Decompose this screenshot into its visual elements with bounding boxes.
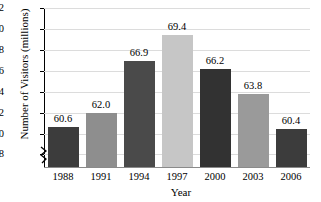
x-tick-label: 2006 bbox=[269, 172, 313, 183]
bar-value-label: 62.0 bbox=[81, 100, 121, 111]
y-tick-label: 64 bbox=[0, 87, 4, 98]
y-tick-mark bbox=[40, 154, 44, 155]
bar-value-label: 60.6 bbox=[43, 114, 83, 125]
x-axis-title: Year bbox=[52, 186, 310, 198]
y-tick-label: 62 bbox=[0, 108, 4, 119]
bar bbox=[238, 94, 269, 167]
y-tick-mark bbox=[40, 71, 44, 72]
y-tick-label: 72 bbox=[0, 3, 4, 14]
x-axis-line bbox=[44, 167, 310, 168]
y-tick-mark bbox=[40, 50, 44, 51]
bar-value-label: 66.2 bbox=[195, 56, 235, 67]
y-tick-mark bbox=[40, 29, 44, 30]
y-tick-label: 66 bbox=[0, 66, 4, 77]
y-axis-title: Number of Visitors (millions) bbox=[18, 0, 30, 154]
bar-value-label: 60.4 bbox=[271, 116, 311, 127]
y-tick-label: 68 bbox=[0, 45, 4, 56]
y-tick-label: 70 bbox=[0, 24, 4, 35]
bar-value-label: 66.9 bbox=[119, 48, 159, 59]
y-tick-label: 60 bbox=[0, 129, 4, 140]
y-tick-mark bbox=[40, 8, 44, 9]
bar bbox=[124, 61, 155, 167]
bar bbox=[276, 129, 307, 167]
bar bbox=[48, 127, 79, 167]
bar bbox=[200, 69, 231, 167]
bar-chart: Number of Visitors (millions) 5860626466… bbox=[0, 0, 321, 202]
plot-area: 5860626466687072 60.662.066.969.466.263.… bbox=[44, 8, 310, 167]
y-tick-mark bbox=[40, 134, 44, 135]
bar bbox=[162, 35, 193, 167]
gridline bbox=[44, 8, 310, 9]
bar bbox=[86, 113, 117, 167]
y-tick-mark bbox=[40, 92, 44, 93]
y-tick-label: 58 bbox=[0, 149, 4, 160]
bar-value-label: 69.4 bbox=[157, 22, 197, 33]
bar-value-label: 63.8 bbox=[233, 81, 273, 92]
